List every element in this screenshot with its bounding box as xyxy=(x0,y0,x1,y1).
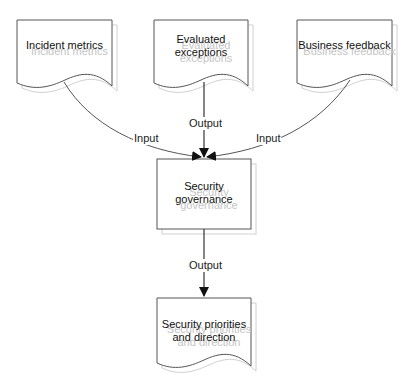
edge-label-output-top: Output xyxy=(188,117,223,130)
edge-incident-to-governance xyxy=(64,82,201,157)
label-evaluated-exceptions: Evaluatedexceptions xyxy=(154,33,248,59)
edge-label-output-bottom: Output xyxy=(188,259,223,272)
label-security-governance: Securitygovernance xyxy=(157,180,251,206)
edge-label-input-left: Input xyxy=(133,132,159,145)
label-security-priorities: Security prioritiesand direction xyxy=(157,318,251,344)
edge-label-input-right: Input xyxy=(255,132,281,145)
label-incident-metrics: Incident metrics xyxy=(17,39,112,52)
label-business-feedback: Business feedback xyxy=(297,39,392,52)
